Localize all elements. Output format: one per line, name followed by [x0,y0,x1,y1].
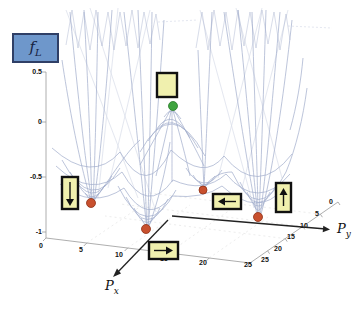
annotation-box-left-arrow [213,194,241,209]
marker-local-minimum [142,225,151,234]
figure-3d-surface-plot: fL 0.5 0 -0.5 -1 0 5 10 15 20 25 0 5 10 … [0,0,359,311]
annotation-overlay [0,0,359,311]
y-axis-arrow [172,216,330,232]
marker-local-minimum [87,199,96,208]
marker-local-minimum [254,213,263,222]
annotation-box-empty [157,73,177,97]
annotation-box-right-arrow [149,242,178,259]
annotation-box-down-arrow [62,177,78,209]
marker-local-maximum [169,102,178,111]
annotation-box-up-arrow [276,183,291,212]
marker-local-minimum [199,186,207,194]
